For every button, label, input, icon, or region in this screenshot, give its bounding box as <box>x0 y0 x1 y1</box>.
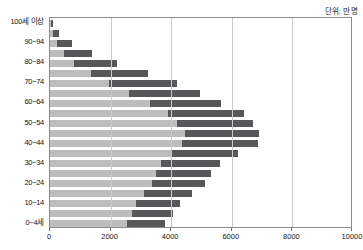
bar-row[interactable] <box>50 130 259 137</box>
bar-segment-male <box>50 110 168 117</box>
bar-row[interactable] <box>50 110 244 117</box>
y-axis-tick-label: 100세 이상 <box>11 18 45 26</box>
y-axis-tick-label: 60~64 <box>24 98 44 106</box>
bar-segment-male <box>50 220 127 227</box>
bar-segment-female <box>64 50 93 57</box>
plot-area <box>49 17 352 228</box>
bar-segment-male <box>50 70 91 77</box>
x-axis-tick-label: 2000 <box>101 232 118 241</box>
bar-row[interactable] <box>50 70 148 77</box>
bar-segment-male <box>50 140 182 147</box>
bar-segment-male <box>50 40 57 47</box>
gridline <box>171 18 172 227</box>
bar-segment-male <box>50 60 74 67</box>
bar-row[interactable] <box>50 140 258 147</box>
bar-segment-male <box>50 200 136 207</box>
x-axis-tick <box>351 228 352 231</box>
y-axis-tick-label: 30~34 <box>24 159 44 167</box>
bar-row[interactable] <box>50 30 59 37</box>
y-axis-tick-label: 90~94 <box>24 38 44 46</box>
x-axis-tick-label: 4000 <box>162 232 179 241</box>
y-axis-tick-label: 0~4세 <box>25 219 44 227</box>
bar-segment-female <box>171 150 238 157</box>
x-axis-tick-label: 10000 <box>342 232 363 241</box>
unit-caption: 단위: 만 명 <box>325 5 358 16</box>
bar-row[interactable] <box>50 220 165 227</box>
bar-segment-female <box>152 180 205 187</box>
bar-row[interactable] <box>50 160 220 167</box>
y-axis-tick-label: 10~14 <box>24 199 44 207</box>
bar-segment-female <box>129 90 200 97</box>
x-axis-tick <box>170 228 171 231</box>
bar-row[interactable] <box>50 50 92 57</box>
x-axis-tick-label: 8000 <box>283 232 300 241</box>
bar-row[interactable] <box>50 200 180 207</box>
bar-segment-male <box>50 50 64 57</box>
bar-row[interactable] <box>50 90 200 97</box>
y-axis-tick-label: 40~44 <box>24 139 44 147</box>
gridline <box>232 18 233 227</box>
population-pyramid-chart: 단위: 만 명 남여 100세 이상90~9480~8470~7460~6450… <box>0 0 363 250</box>
y-axis: 100세 이상90~9480~8470~7460~6450~5440~4430~… <box>0 17 47 228</box>
x-axis-tick <box>49 228 50 231</box>
bar-segment-male <box>50 210 132 217</box>
bar-segment-female <box>91 70 149 77</box>
bar-segment-female <box>156 170 211 177</box>
gridline <box>111 18 112 227</box>
bar-segment-female <box>150 100 221 107</box>
x-axis-tick-label: 6000 <box>222 232 239 241</box>
x-axis-tick <box>231 228 232 231</box>
bar-segment-female <box>144 190 192 197</box>
y-axis-tick-label: 70~74 <box>24 78 44 86</box>
bar-segment-male <box>50 170 156 177</box>
bar-segment-male <box>50 160 161 167</box>
x-axis-tick-label: 0 <box>47 232 51 241</box>
x-axis: 0200040006000800010000 <box>49 228 352 248</box>
bar-row[interactable] <box>50 40 72 47</box>
bar-segment-male <box>50 190 144 197</box>
bar-row[interactable] <box>50 150 238 157</box>
bar-segment-male <box>50 100 150 107</box>
bar-segment-female <box>127 220 165 227</box>
bar-segment-female <box>177 120 253 127</box>
bar-rows-container <box>50 18 351 227</box>
bar-segment-female <box>161 160 220 167</box>
bar-row[interactable] <box>50 180 205 187</box>
bar-row[interactable] <box>50 20 53 27</box>
x-axis-tick <box>110 228 111 231</box>
gridline <box>292 18 293 227</box>
bar-segment-male <box>50 90 129 97</box>
bar-segment-male <box>50 180 152 187</box>
y-axis-tick-label: 80~84 <box>24 58 44 66</box>
bar-segment-female <box>132 210 173 217</box>
y-axis-tick-label: 50~54 <box>24 119 44 127</box>
bar-segment-male <box>50 130 185 137</box>
bar-segment-female <box>53 30 59 37</box>
bar-segment-female <box>51 20 53 27</box>
bar-segment-female <box>182 140 258 147</box>
bar-row[interactable] <box>50 80 177 87</box>
bar-segment-female <box>136 200 180 207</box>
y-axis-tick-label: 20~24 <box>24 179 44 187</box>
bar-row[interactable] <box>50 120 253 127</box>
x-axis-tick <box>291 228 292 231</box>
bar-segment-female <box>109 80 177 87</box>
bar-segment-male <box>50 120 177 127</box>
bar-segment-female <box>185 130 259 137</box>
bar-row[interactable] <box>50 100 221 107</box>
bar-row[interactable] <box>50 60 117 67</box>
bar-row[interactable] <box>50 170 211 177</box>
bar-segment-male <box>50 80 109 87</box>
bar-segment-female <box>57 40 72 47</box>
